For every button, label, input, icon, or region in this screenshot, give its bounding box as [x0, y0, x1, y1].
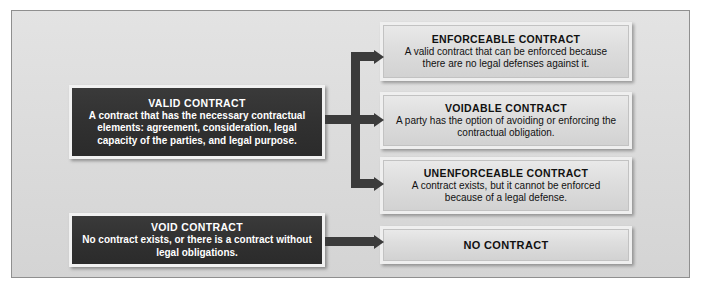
diagram-panel: VALID CONTRACT A contract that has the n…: [11, 10, 690, 278]
node-enforceable-contract: ENFORCEABLE CONTRACT A valid contract th…: [380, 22, 632, 81]
node-valid-contract-body: A contract that has the necessary contra…: [80, 110, 314, 147]
node-unenforceable-contract-body: A contract exists, but it cannot be enfo…: [394, 180, 618, 205]
node-no-contract: NO CONTRACT: [380, 226, 632, 264]
node-void-contract-body: No contract exists, or there is a contra…: [80, 234, 314, 259]
node-voidable-contract: VOIDABLE CONTRACT A party has the option…: [380, 92, 632, 149]
node-enforceable-contract-title: ENFORCEABLE CONTRACT: [432, 33, 581, 46]
node-enforceable-contract-body: A valid contract that can be enforced be…: [394, 46, 618, 71]
contract-types-diagram: VALID CONTRACT A contract that has the n…: [0, 0, 701, 288]
arrowhead-enforceable-icon: [374, 50, 384, 64]
node-void-contract-title: VOID CONTRACT: [151, 221, 243, 234]
arrowhead-voidable-icon: [374, 113, 384, 127]
connector-branch-to-unenforceable: [351, 179, 376, 188]
node-unenforceable-contract: UNENFORCEABLE CONTRACT A contract exists…: [380, 157, 632, 214]
node-voidable-contract-inner: VOIDABLE CONTRACT A party has the option…: [383, 95, 629, 146]
node-valid-contract: VALID CONTRACT A contract that has the n…: [69, 85, 325, 159]
connector-branch-to-enforceable: [351, 52, 376, 61]
node-valid-contract-inner: VALID CONTRACT A contract that has the n…: [72, 88, 322, 156]
arrowhead-no-contract-icon: [374, 235, 384, 249]
node-no-contract-inner: NO CONTRACT: [383, 229, 629, 261]
arrowhead-unenforceable-icon: [374, 177, 384, 191]
node-unenforceable-contract-inner: UNENFORCEABLE CONTRACT A contract exists…: [383, 160, 629, 211]
node-voidable-contract-body: A party has the option of avoiding or en…: [394, 115, 618, 140]
node-void-contract-inner: VOID CONTRACT No contract exists, or the…: [72, 216, 322, 264]
connector-branch-to-voidable: [351, 115, 376, 124]
node-enforceable-contract-inner: ENFORCEABLE CONTRACT A valid contract th…: [383, 25, 629, 78]
connector-void-to-no-contract: [325, 237, 376, 246]
node-unenforceable-contract-title: UNENFORCEABLE CONTRACT: [424, 167, 589, 180]
node-valid-contract-title: VALID CONTRACT: [148, 97, 245, 110]
node-no-contract-title: NO CONTRACT: [463, 239, 548, 252]
node-voidable-contract-title: VOIDABLE CONTRACT: [445, 102, 567, 115]
node-void-contract: VOID CONTRACT No contract exists, or the…: [69, 213, 325, 267]
